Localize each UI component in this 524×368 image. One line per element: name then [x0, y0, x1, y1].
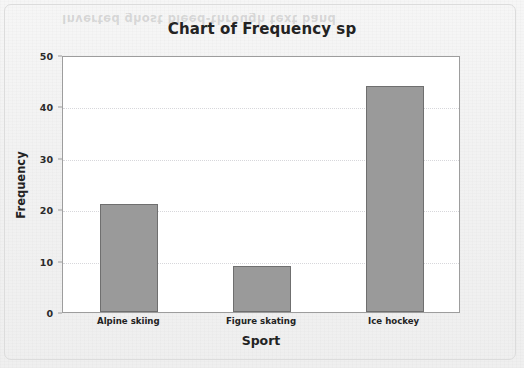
x-axis-tick-label: Alpine skiing: [97, 316, 160, 326]
plot-area: [62, 56, 460, 313]
bar: [366, 86, 424, 312]
bar: [100, 204, 158, 312]
x-axis-tick-labels: Alpine skiingFigure skatingIce hockey: [62, 316, 460, 332]
x-axis-tick-label: Figure skating: [226, 316, 296, 326]
y-axis-ticks: 01020304050: [0, 56, 62, 313]
bar-series: [63, 57, 459, 312]
y-axis-tick-label: 10: [40, 256, 53, 267]
scanned-page: Inverted ghost bleed-through text band C…: [0, 0, 524, 368]
y-axis-tick-label: 0: [46, 308, 53, 319]
y-axis-tick-label: 50: [40, 51, 53, 62]
y-axis-tick-label: 40: [40, 102, 53, 113]
x-axis-tick-label: Ice hockey: [368, 316, 419, 326]
y-axis-tick-label: 20: [40, 205, 53, 216]
y-axis-tick-label: 30: [40, 153, 53, 164]
bar-chart: Chart of Frequency sp Frequency 01020304…: [0, 0, 524, 368]
chart-title: Chart of Frequency sp: [0, 20, 524, 38]
bar: [233, 266, 291, 312]
x-axis-title: Sport: [62, 333, 460, 348]
